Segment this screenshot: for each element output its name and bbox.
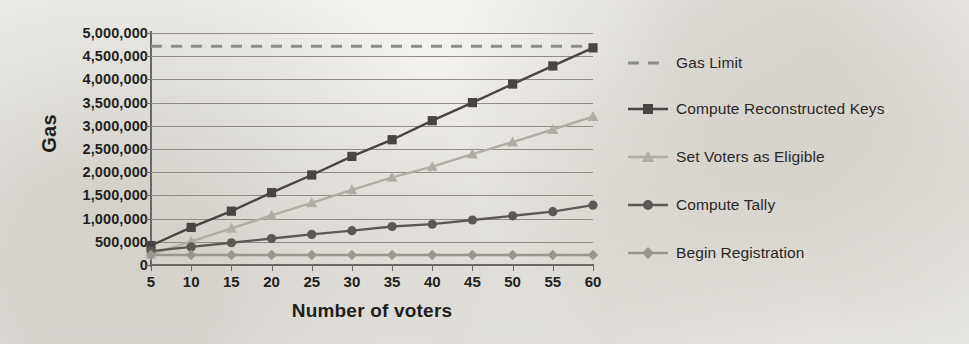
x-axis-tick-mark: [553, 265, 554, 271]
data-point-marker: [187, 223, 196, 232]
y-axis-tick-label: 3,500,000: [40, 96, 148, 111]
data-point-marker: [267, 188, 276, 197]
plot-area: [151, 33, 593, 265]
series-compute-tally: [146, 201, 597, 256]
y-axis-tick-label: 0: [40, 258, 148, 273]
x-axis-tick-label: 30: [332, 273, 372, 290]
x-axis-tick-label: 5: [131, 273, 171, 290]
legend-item[interactable]: Begin Registration: [626, 242, 804, 264]
data-point-marker: [307, 230, 316, 239]
data-point-marker: [468, 215, 477, 224]
x-axis-tick-label: 35: [372, 273, 412, 290]
y-axis-tick-label: 3,000,000: [40, 119, 148, 134]
series-begin-registration: [146, 250, 599, 261]
legend-label: Compute Reconstructed Keys: [676, 100, 885, 118]
data-point-marker: [588, 201, 597, 210]
data-point-marker: [588, 43, 597, 52]
x-axis-tick-mark: [513, 265, 514, 271]
y-axis-tick-label: 2,000,000: [40, 165, 148, 180]
data-point-marker: [548, 250, 559, 261]
y-axis-tick-label: 4,000,000: [40, 72, 148, 87]
x-axis-tick-mark: [472, 265, 473, 271]
x-axis-tick-label: 45: [452, 273, 492, 290]
x-axis-tick-mark: [272, 265, 273, 271]
legend-key-circle-marker: [626, 195, 670, 215]
x-axis-title: Number of voters: [151, 300, 593, 322]
data-point-marker: [548, 61, 557, 70]
data-point-marker: [427, 250, 438, 261]
data-point-marker: [387, 250, 398, 261]
x-axis-tick-mark: [352, 265, 353, 271]
data-point-marker: [508, 79, 517, 88]
data-point-marker: [347, 226, 356, 235]
data-point-marker: [307, 170, 316, 179]
legend-key-diamond-marker: [626, 243, 670, 263]
data-point-marker: [428, 220, 437, 229]
x-axis-tick-label: 10: [171, 273, 211, 290]
data-point-marker: [306, 250, 317, 261]
legend-key-dashed-line: [626, 53, 670, 73]
data-point-marker: [227, 207, 236, 216]
data-point-marker: [226, 250, 237, 261]
legend-key-square-marker: [626, 99, 670, 119]
x-axis-tick-mark: [191, 265, 192, 271]
series-compute-reconstructed-keys: [146, 43, 597, 250]
x-axis-tick-label: 40: [412, 273, 452, 290]
x-axis-tick-labels: 51015202530354045505560: [151, 273, 593, 297]
x-axis-tick-label: 55: [533, 273, 573, 290]
x-axis-tick-label: 15: [211, 273, 251, 290]
series-layer: [151, 33, 593, 265]
data-point-marker: [387, 135, 396, 144]
series-set-voters-as-eligible: [146, 111, 599, 259]
legend-item[interactable]: Compute Tally: [626, 194, 775, 216]
x-axis-tick-label: 20: [252, 273, 292, 290]
x-axis-tick-mark: [151, 265, 152, 271]
y-axis-tick-label: 4,500,000: [40, 49, 148, 64]
data-point-marker: [588, 250, 599, 261]
legend-label: Compute Tally: [676, 196, 775, 214]
legend-label: Begin Registration: [676, 244, 804, 262]
x-axis-tick-mark: [231, 265, 232, 271]
data-point-marker: [588, 111, 599, 121]
data-point-marker: [548, 207, 557, 216]
y-axis-tick-label: 500,000: [40, 235, 148, 250]
legend-item[interactable]: Compute Reconstructed Keys: [626, 98, 885, 120]
chart-legend: Gas LimitCompute Reconstructed KeysSet V…: [626, 34, 956, 266]
x-axis-tick-mark: [432, 265, 433, 271]
data-point-marker: [347, 250, 358, 261]
x-axis-tick-mark: [312, 265, 313, 271]
x-axis-tick-label: 50: [493, 273, 533, 290]
data-point-marker: [428, 116, 437, 125]
data-point-marker: [508, 211, 517, 220]
legend-key-triangle-marker: [626, 147, 670, 167]
data-point-marker: [507, 250, 518, 261]
gas-usage-line-chart: Gas 5,000,0004,500,0004,000,0003,500,000…: [0, 0, 969, 344]
legend-item[interactable]: Set Voters as Eligible: [626, 146, 825, 168]
data-point-marker: [227, 238, 236, 247]
y-axis-tick-label: 2,500,000: [40, 142, 148, 157]
legend-label: Gas Limit: [676, 54, 742, 72]
data-point-marker: [267, 234, 276, 243]
legend-item[interactable]: Gas Limit: [626, 52, 742, 74]
x-axis-tick-label: 25: [292, 273, 332, 290]
x-axis-tick-label: 60: [573, 273, 613, 290]
data-point-marker: [186, 250, 197, 261]
data-point-marker: [387, 222, 396, 231]
x-axis-tick-mark: [593, 265, 594, 271]
y-axis-tick-label: 5,000,000: [40, 26, 148, 41]
data-point-marker: [266, 250, 277, 261]
data-point-marker: [347, 152, 356, 161]
y-axis-tick-labels: 5,000,0004,500,0004,000,0003,500,0003,00…: [40, 23, 148, 275]
data-point-marker: [468, 98, 477, 107]
y-axis-tick-label: 1,500,000: [40, 188, 148, 203]
legend-label: Set Voters as Eligible: [676, 148, 825, 166]
y-axis-tick-label: 1,000,000: [40, 212, 148, 227]
x-axis-tick-mark: [392, 265, 393, 271]
data-point-marker: [467, 250, 478, 261]
